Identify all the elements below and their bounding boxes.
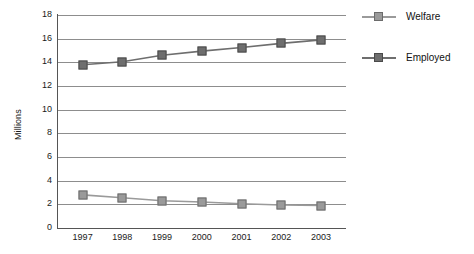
gridline <box>58 15 346 16</box>
legend-marker-employed <box>374 53 383 62</box>
y-axis-tick: 2 <box>26 198 52 208</box>
y-axis-tick: 0 <box>26 222 52 232</box>
legend-label-welfare: Welfare <box>406 10 440 23</box>
x-axis-tick: 2001 <box>222 232 262 242</box>
x-axis-tick: 1997 <box>63 232 103 242</box>
y-axis-tick: 16 <box>26 33 52 43</box>
x-axis-tick: 2002 <box>261 232 301 242</box>
gridline <box>58 86 346 87</box>
y-axis-tick: 8 <box>26 127 52 137</box>
data-point-employed-1998[interactable] <box>118 57 127 66</box>
x-axis-line <box>57 228 346 229</box>
legend-item-welfare[interactable]: Welfare <box>362 10 474 24</box>
data-point-employed-2000[interactable] <box>197 47 206 56</box>
gridline <box>58 133 346 134</box>
legend-item-employed[interactable]: Employed <box>362 51 474 65</box>
x-axis-tick: 2003 <box>301 232 341 242</box>
data-point-employed-2002[interactable] <box>277 39 286 48</box>
y-axis-tick: 6 <box>26 151 52 161</box>
data-point-welfare-2000[interactable] <box>197 197 206 206</box>
data-point-employed-2003[interactable] <box>316 35 325 44</box>
data-point-employed-1997[interactable] <box>78 60 87 69</box>
data-point-welfare-1997[interactable] <box>78 190 87 199</box>
data-point-welfare-2001[interactable] <box>237 199 246 208</box>
line-chart: Millions 181614121086420 199719981999200… <box>0 0 474 254</box>
y-axis-tick: 12 <box>26 80 52 90</box>
data-point-welfare-1999[interactable] <box>158 196 167 205</box>
y-axis-tick: 10 <box>26 104 52 114</box>
data-point-employed-1999[interactable] <box>158 51 167 60</box>
gridline <box>58 39 346 40</box>
data-point-welfare-1998[interactable] <box>118 193 127 202</box>
y-axis-title: Millions <box>13 82 23 96</box>
y-axis-tick: 18 <box>26 9 52 19</box>
x-axis-tick: 1999 <box>142 232 182 242</box>
x-axis-tick: 2000 <box>182 232 222 242</box>
x-axis-tick: 1998 <box>102 232 142 242</box>
legend-marker-welfare <box>374 12 383 21</box>
gridline <box>58 157 346 158</box>
legend-label-employed: Employed <box>406 51 450 64</box>
gridline <box>58 181 346 182</box>
y-axis-tick: 4 <box>26 175 52 185</box>
data-point-employed-2001[interactable] <box>237 43 246 52</box>
data-point-welfare-2002[interactable] <box>277 200 286 209</box>
y-axis-title-label: Millions <box>13 126 23 140</box>
y-axis-tick: 14 <box>26 56 52 66</box>
gridline <box>58 110 346 111</box>
y-axis-tick-labels: 181614121086420 <box>26 15 52 228</box>
data-point-welfare-2003[interactable] <box>316 201 325 210</box>
gridline <box>58 62 346 63</box>
chart-legend: Welfare Employed <box>362 10 474 92</box>
